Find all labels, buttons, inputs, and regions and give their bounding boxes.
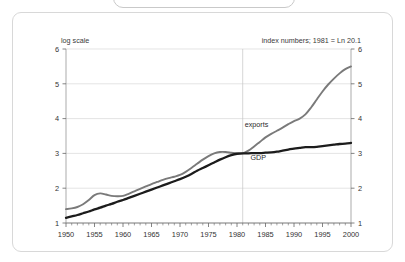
y-tick-label-right: 3	[358, 149, 362, 158]
x-tick-labels: 1950195519601965197019751980198519901995…	[58, 230, 359, 239]
top-clipped-panel	[113, 0, 295, 8]
series-label-exports: exports	[245, 120, 269, 129]
y-tick-label-left: 3	[55, 149, 59, 158]
y-tick-labels-right: 123456	[358, 45, 362, 228]
y-tick-label-left: 2	[55, 184, 59, 193]
y-tick-label-right: 1	[358, 219, 362, 228]
y-tick-label-left: 1	[55, 219, 59, 228]
y-tick-label-left: 4	[55, 114, 59, 123]
index-numbers-note: index numbers; 1981 = Ln 20.1	[262, 36, 361, 45]
y-axis-right	[351, 49, 355, 223]
series-line-gdp	[66, 143, 351, 218]
x-tick-label: 1950	[58, 230, 74, 239]
y-axis-left	[63, 49, 67, 223]
log-scale-note: log scale	[61, 36, 89, 45]
y-tick-label-right: 4	[358, 114, 362, 123]
x-tick-label: 1990	[286, 230, 302, 239]
x-tick-label: 1960	[115, 230, 131, 239]
line-chart-svg: 1950195519601965197019751980198519901995…	[13, 13, 394, 253]
x-tick-label: 1970	[172, 230, 188, 239]
y-tick-label-right: 2	[358, 184, 362, 193]
x-tick-label: 1980	[229, 230, 245, 239]
y-tick-label-left: 5	[55, 80, 59, 89]
x-tick-label: 1965	[143, 230, 159, 239]
series-line-exports	[66, 66, 351, 209]
y-tick-label-right: 5	[358, 80, 362, 89]
x-tick-label: 1975	[200, 230, 216, 239]
y-tick-labels-left: 123456	[55, 45, 59, 228]
x-tick-label: 1985	[257, 230, 273, 239]
y-tick-label-left: 6	[55, 45, 59, 54]
x-axis	[66, 223, 351, 227]
series-labels: exportsGDP	[245, 120, 269, 162]
series-lines	[66, 66, 351, 217]
chart-card: 1950195519601965197019751980198519901995…	[12, 12, 393, 252]
grid-lines	[66, 49, 351, 188]
series-label-gdp: GDP	[250, 153, 266, 162]
x-tick-label: 2000	[343, 230, 359, 239]
y-tick-label-right: 6	[358, 45, 362, 54]
x-tick-label: 1955	[86, 230, 102, 239]
chart-plot-area: 1950195519601965197019751980198519901995…	[13, 13, 394, 253]
x-tick-label: 1995	[314, 230, 330, 239]
